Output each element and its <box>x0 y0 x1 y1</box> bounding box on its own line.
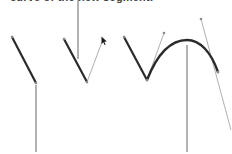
pointer-cursor-icon <box>102 37 107 46</box>
diagram-illustration <box>0 0 232 154</box>
diagram-canvas: curve of the new segment. <box>0 0 232 154</box>
figure-drag-direction <box>63 0 107 83</box>
direction-handle <box>201 19 231 130</box>
segment-line <box>12 37 36 83</box>
segment-line <box>64 39 87 82</box>
anchor-point <box>35 82 38 85</box>
anchor-point <box>63 38 66 41</box>
handle-point <box>200 18 203 21</box>
anchor-point <box>123 36 126 39</box>
anchor-point <box>217 71 220 74</box>
figure-curved-segment <box>123 18 231 152</box>
segment-line <box>124 37 147 80</box>
handle-point <box>163 32 166 35</box>
curved-segment-path <box>147 40 218 80</box>
anchor-point <box>146 79 149 82</box>
figure-straight-segment <box>11 36 38 152</box>
anchor-point <box>86 81 89 84</box>
direction-line <box>87 42 102 82</box>
anchor-point <box>11 36 14 39</box>
